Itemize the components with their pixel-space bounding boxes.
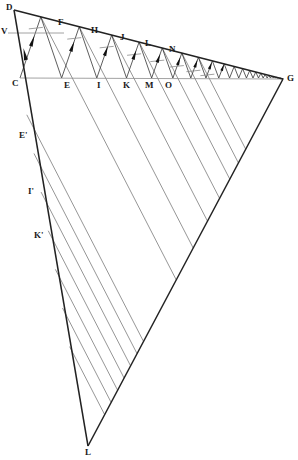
fan-ray-5: [182, 53, 239, 163]
parallel-ray-4: [55, 269, 117, 390]
arrowhead-up-8: [220, 64, 224, 71]
bottom-point-label-E: E: [64, 81, 70, 90]
apex-tick-1: [67, 38, 81, 40]
arrowhead-up-4: [156, 54, 161, 63]
parallel-ray-5: [63, 308, 112, 402]
triangle-frame: [14, 10, 283, 446]
apex-tick-0: [29, 27, 43, 29]
edge-G-L: [88, 79, 283, 446]
apex-tick-2: [100, 46, 114, 48]
fan-ray-6: [198, 57, 245, 149]
parallel-ray-group: [27, 115, 144, 415]
parallel-ray-2: [41, 192, 130, 366]
top-point-label-L: L: [145, 39, 151, 48]
left-edge-label-E-prime: E': [19, 131, 28, 140]
edge-D-L: [14, 10, 88, 446]
arrowhead-up-1: [69, 41, 74, 52]
fan-line-group: [41, 17, 246, 280]
top-point-label-F: F: [58, 18, 64, 27]
left-edge-label-K-prime: K': [34, 231, 44, 240]
vertex-label-D: D: [6, 3, 13, 12]
parallel-ray-0: [27, 115, 144, 342]
top-point-label-J: J: [120, 33, 125, 42]
fan-ray-0: [41, 17, 176, 280]
vertex-label-C: C: [12, 79, 19, 88]
bottom-point-label-I: I: [97, 81, 101, 90]
arrowhead-up-7: [208, 62, 212, 70]
fan-ray-4: [162, 48, 230, 179]
arrowhead-up-5: [176, 57, 180, 66]
vertex-label-L: L: [85, 448, 91, 457]
fan-ray-3: [139, 42, 219, 198]
vertex-label-G: G: [287, 74, 294, 83]
vertex-label-V: V: [1, 27, 8, 36]
fan-ray-1: [79, 27, 193, 248]
parallel-ray-3: [48, 231, 124, 378]
arrowhead-up-left-edge: [23, 48, 27, 60]
bottom-point-label-O: O: [165, 81, 172, 90]
left-edge-label-I-prime: I': [28, 187, 34, 196]
figure-canvas: [0, 0, 298, 460]
arrowhead-up-0: [29, 36, 34, 47]
arrowhead-up-6: [193, 60, 197, 68]
top-point-label-H: H: [91, 26, 98, 35]
bottom-point-label-K: K: [123, 81, 130, 90]
bottom-point-label-M: M: [145, 81, 154, 90]
parallel-ray-1: [34, 153, 137, 353]
top-point-label-N: N: [169, 45, 176, 54]
fan-ray-2: [112, 35, 208, 221]
geometric-figure: D V C G L F H J L N E I K M O E' I' K': [0, 0, 298, 460]
base-line-C-G: [20, 78, 283, 79]
